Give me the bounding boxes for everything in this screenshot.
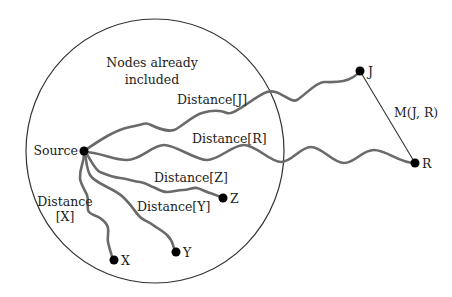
node-y bbox=[172, 248, 181, 257]
label-m-j-r: M(J, R) bbox=[394, 105, 438, 120]
node-source bbox=[80, 147, 89, 156]
shortest-path-diagram: Nodes already included Source Z Y X J R … bbox=[0, 0, 452, 297]
label-distance-y: Distance[Y] bbox=[137, 199, 210, 214]
label-x: X bbox=[121, 253, 130, 268]
label-source: Source bbox=[33, 143, 78, 158]
region-label-line1: Nodes already bbox=[106, 55, 199, 70]
label-distance-x-line2: [X] bbox=[56, 209, 75, 224]
node-x bbox=[110, 256, 119, 265]
label-distance-z: Distance[Z] bbox=[154, 170, 228, 185]
label-distance-r: Distance[R] bbox=[192, 131, 267, 146]
path-source-to-r bbox=[84, 145, 414, 163]
label-j: J bbox=[366, 64, 373, 79]
label-distance-j: Distance[J] bbox=[177, 92, 247, 107]
label-y: Y bbox=[182, 245, 192, 260]
node-j bbox=[356, 67, 365, 76]
label-z: Z bbox=[230, 191, 239, 206]
label-distance-x-line1: Distance bbox=[37, 194, 92, 209]
region-label-line2: included bbox=[125, 72, 180, 87]
label-r: R bbox=[422, 156, 432, 171]
node-z bbox=[219, 194, 228, 203]
node-r bbox=[411, 159, 420, 168]
